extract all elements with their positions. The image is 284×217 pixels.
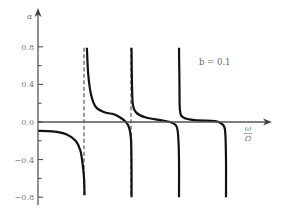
- curve-branch-1: [38, 131, 85, 195]
- x-axis-label-numerator: ω: [245, 124, 252, 133]
- y-tick-label: 0.0: [21, 118, 34, 127]
- x-axis-label-denominator: Ω: [244, 134, 252, 143]
- annotation-b-value: b = 0.1: [199, 57, 231, 67]
- chart: α ω Ω 0.80.40.0−0.4−0.8 b = 0.1: [0, 0, 284, 217]
- y-tick-label: −0.4: [15, 156, 34, 165]
- y-ticks: 0.80.40.0−0.4−0.8: [15, 43, 43, 202]
- y-axis-label: α: [27, 12, 33, 21]
- y-tick-label: −0.8: [15, 193, 34, 202]
- y-tick-label: 0.8: [21, 43, 34, 52]
- x-axis-label: ω Ω: [244, 124, 252, 143]
- y-tick-label: 0.4: [21, 80, 34, 89]
